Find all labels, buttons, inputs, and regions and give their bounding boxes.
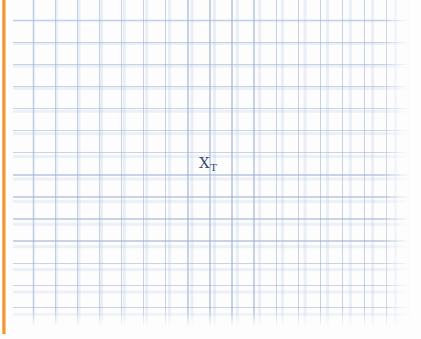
x-sub-t-marker: XT (199, 155, 217, 173)
x-sub-t-symbol: X (199, 154, 210, 172)
left-accent-bar (2, 0, 6, 334)
graph-paper-canvas: XT (0, 0, 421, 339)
x-sub-t-subscript: T (210, 162, 217, 173)
